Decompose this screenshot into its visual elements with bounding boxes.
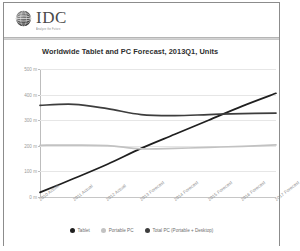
y-axis-tick-label: 0 m — [29, 195, 37, 200]
legend-marker-icon — [145, 228, 150, 233]
logo-text-block: IDC Analyze the Future — [36, 9, 67, 31]
legend-item[interactable]: Tablet — [70, 228, 90, 233]
y-axis-tick-label: 500 m — [24, 67, 37, 72]
brand-name: IDC — [36, 9, 67, 26]
header-divider — [4, 37, 279, 40]
y-axis-tick-label: 300 m — [24, 118, 37, 123]
chart-legend: TabletPortable PCTotal PC (Portable + De… — [4, 228, 279, 233]
series-lines — [40, 69, 276, 197]
series-line — [40, 93, 276, 192]
idc-logo: IDC Analyze the Future — [15, 9, 67, 31]
legend-item[interactable]: Total PC (Portable + Desktop) — [145, 228, 214, 233]
series-line — [40, 145, 276, 149]
legend-label: Portable PC — [109, 228, 134, 233]
y-axis-tick-label: 100 m — [24, 169, 37, 174]
brand-tagline: Analyze the Future — [36, 28, 67, 32]
chart-title: Worldwide Tablet and PC Forecast, 2013Q1… — [42, 47, 257, 57]
brand-header: IDC Analyze the Future — [4, 3, 279, 39]
y-axis-tick-label: 200 m — [24, 143, 37, 148]
globe-icon — [15, 10, 32, 27]
legend-label: Tablet — [78, 228, 90, 233]
legend-item[interactable]: Portable PC — [101, 228, 134, 233]
chart-container: Worldwide Tablet and PC Forecast, 2013Q1… — [4, 42, 279, 246]
legend-marker-icon — [101, 228, 106, 233]
plot-area: 500 m400 m300 m200 m100 m0 m — [40, 69, 276, 197]
legend-label: Total PC (Portable + Desktop) — [152, 228, 213, 233]
legend-marker-icon — [70, 228, 75, 233]
y-axis-tick-label: 400 m — [24, 92, 37, 97]
report-card: IDC Analyze the Future Worldwide Tablet … — [3, 2, 280, 246]
